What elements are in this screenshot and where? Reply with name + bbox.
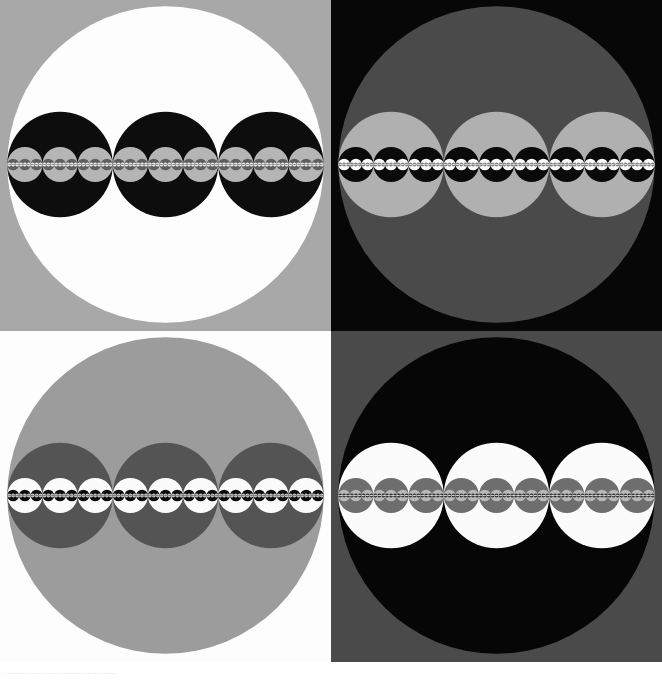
panel-bottom-right [331,331,662,662]
panel-top-left-canvas [0,0,331,331]
panel-top-right [331,0,662,331]
figure-root: .................................... [0,0,662,680]
scan-caption: .................................... [0,662,662,680]
panel-grid [0,0,662,662]
panel-bottom-right-canvas [331,331,662,662]
panel-bottom-left-canvas [0,331,331,662]
panel-top-right-canvas [331,0,662,331]
panel-top-left [0,0,331,331]
panel-bottom-left [0,331,331,662]
